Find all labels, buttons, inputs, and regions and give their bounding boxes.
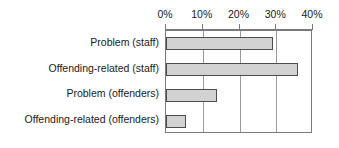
x-tick-label: 10% (191, 8, 212, 20)
category-label: Offending-related (offenders) (0, 113, 163, 125)
bar (166, 89, 217, 102)
x-tick-label: 20% (228, 8, 249, 20)
bar (166, 115, 186, 128)
bar-chart: 0%10%20%30%40% Problem (staff)Offending-… (0, 0, 339, 148)
x-tick-label: 40% (301, 8, 322, 20)
category-label: Problem (staff) (0, 36, 163, 48)
x-axis-tick-labels: 0%10%20%30%40% (0, 8, 339, 22)
plot-area (165, 30, 312, 133)
bar (166, 63, 298, 76)
x-tick-mark (312, 24, 313, 30)
bar (166, 37, 273, 50)
y-axis-category-labels: Problem (staff)Offending-related (staff)… (0, 30, 163, 133)
x-tick-label: 0% (157, 8, 172, 20)
x-tick-label: 30% (265, 8, 286, 20)
category-label: Problem (offenders) (0, 87, 163, 99)
gridline (276, 31, 277, 132)
category-label: Offending-related (staff) (0, 62, 163, 74)
